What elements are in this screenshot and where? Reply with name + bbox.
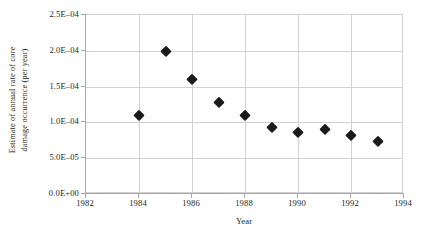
- x-tick-label: 1982: [76, 198, 94, 208]
- chart-figure: Estimate of annual rate of core damage o…: [0, 0, 421, 243]
- plot-area: [85, 14, 403, 193]
- y-tick-label: 2.5E–04: [3, 9, 79, 19]
- x-tick-label: 1992: [341, 198, 359, 208]
- data-point-1988: [240, 110, 251, 121]
- x-tick-label: 1986: [182, 198, 200, 208]
- y-tick-label: 0.0E+00: [3, 188, 79, 198]
- data-point-1991: [319, 123, 330, 134]
- y-axis-tick-labels: 0.0E+00 5.0E–05 1.0E–04 1.5E–04 2.0E–04 …: [0, 0, 79, 243]
- x-axis-title: Year: [85, 216, 403, 226]
- y-tick-label: 1.5E–04: [3, 81, 79, 91]
- y-tick-label: 2.0E–04: [3, 45, 79, 55]
- x-tick-label: 1988: [235, 198, 253, 208]
- data-point-1986: [187, 74, 198, 85]
- data-point-1992: [346, 130, 357, 141]
- data-point-1990: [293, 126, 304, 137]
- data-point-1984: [134, 110, 145, 121]
- y-axis-line: [85, 14, 86, 194]
- gridline-horizontal: [86, 158, 402, 159]
- gridline-horizontal: [86, 122, 402, 123]
- data-point-1987: [213, 97, 224, 108]
- gridline-vertical: [245, 15, 246, 192]
- data-point-1993: [372, 136, 383, 147]
- gridline-vertical: [351, 15, 352, 192]
- y-tick-label: 1.0E–04: [3, 116, 79, 126]
- gridline-horizontal: [86, 51, 402, 52]
- x-tick-label: 1990: [288, 198, 306, 208]
- data-point-1985: [160, 45, 171, 56]
- gridline-horizontal: [86, 87, 402, 88]
- y-tick-label: 5.0E–05: [3, 152, 79, 162]
- x-tick-label: 1984: [129, 198, 147, 208]
- gridline-vertical: [139, 15, 140, 192]
- x-tick-label: 1994: [394, 198, 412, 208]
- gridline-vertical: [192, 15, 193, 192]
- gridline-vertical: [298, 15, 299, 192]
